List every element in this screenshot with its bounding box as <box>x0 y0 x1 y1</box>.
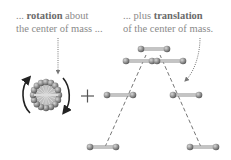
curved-arrow-icon <box>63 78 69 111</box>
trajectory-right-line <box>160 55 201 147</box>
rotating-molecule-icon <box>30 79 62 111</box>
curved-arrow-icon <box>23 79 30 113</box>
trajectory-left-line <box>105 55 146 147</box>
diagram-canvas <box>0 0 231 160</box>
diatomic-molecule-icon <box>123 58 156 65</box>
diatomic-molecule-icon <box>154 58 187 65</box>
diatomic-molecule-icon <box>187 144 220 151</box>
translation-pointer-arrow <box>186 38 200 80</box>
plus-icon <box>81 90 94 103</box>
diatomic-molecule-icon <box>170 92 203 99</box>
diatomic-molecule-icon <box>104 92 137 99</box>
diatomic-molecule-icon <box>138 46 171 53</box>
diatomic-molecule-icon <box>87 144 120 151</box>
